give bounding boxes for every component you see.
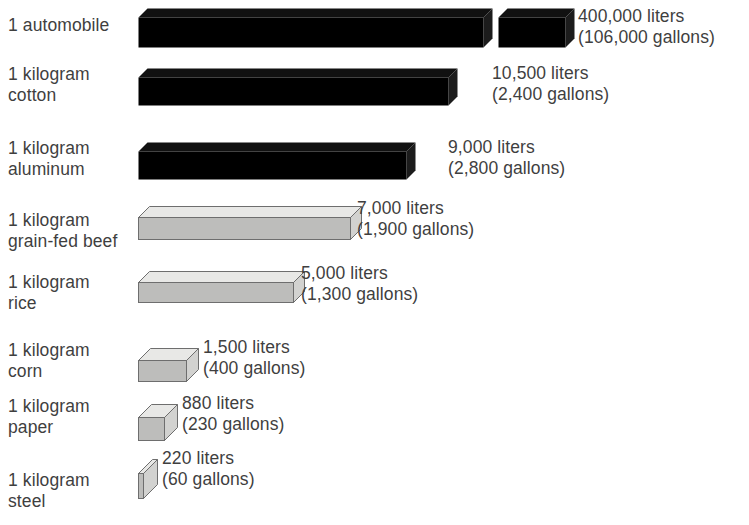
row-value-gallons: (106,000 gallons) xyxy=(578,27,715,47)
bar-3 xyxy=(138,206,363,241)
row-value-liters: 5,000 liters xyxy=(301,263,388,283)
row-value-7: 220 liters(60 gallons) xyxy=(162,448,255,490)
water-footprint-chart: 1 automobile400,000 liters(106,000 gallo… xyxy=(0,0,749,525)
row-label-0: 1 automobile xyxy=(8,15,109,36)
row-label-line1: 1 kilogram xyxy=(8,470,90,490)
row-value-liters: 7,000 liters xyxy=(357,198,444,218)
row-value-gallons: (1,300 gallons) xyxy=(301,284,418,304)
row-label-line2: rice xyxy=(8,293,37,313)
bar-2 xyxy=(138,142,417,181)
bar-0 xyxy=(138,8,494,49)
row-value-liters: 880 liters xyxy=(182,393,254,413)
row-value-liters: 220 liters xyxy=(162,448,234,468)
row-value-gallons: (1,900 gallons) xyxy=(357,219,474,239)
row-value-liters: 10,500 liters xyxy=(492,63,589,83)
row-label-line1: 1 automobile xyxy=(8,15,109,35)
row-value-gallons: (2,800 gallons) xyxy=(448,158,565,178)
row-label-line2: corn xyxy=(8,361,42,381)
bar-7 xyxy=(138,459,159,500)
row-label-line1: 1 kilogram xyxy=(8,340,90,360)
row-value-liters: 400,000 liters xyxy=(578,6,684,26)
row-value-gallons: (2,400 gallons) xyxy=(492,84,609,104)
row-label-3: 1 kilogramgrain-fed beef xyxy=(8,210,117,252)
row-value-3: 7,000 liters(1,900 gallons) xyxy=(357,198,474,240)
row-value-5: 1,500 liters(400 gallons) xyxy=(203,337,305,379)
row-label-4: 1 kilogramrice xyxy=(8,272,90,314)
bar-5 xyxy=(138,348,200,383)
row-value-gallons: (230 gallons) xyxy=(182,414,284,434)
row-label-line2: grain-fed beef xyxy=(8,231,117,251)
row-label-line1: 1 kilogram xyxy=(8,396,90,416)
row-label-line2: steel xyxy=(8,491,45,511)
row-value-6: 880 liters(230 gallons) xyxy=(182,393,284,435)
row-label-line2: cotton xyxy=(8,85,56,105)
bar-1 xyxy=(138,68,459,107)
row-value-liters: 9,000 liters xyxy=(448,137,535,157)
row-label-line1: 1 kilogram xyxy=(8,272,90,292)
row-value-0: 400,000 liters(106,000 gallons) xyxy=(578,6,715,48)
bar-0-segment-2 xyxy=(498,8,576,49)
row-label-6: 1 kilogrampaper xyxy=(8,396,90,438)
row-value-4: 5,000 liters(1,300 gallons) xyxy=(301,263,418,305)
row-label-line2: paper xyxy=(8,417,53,437)
row-value-gallons: (60 gallons) xyxy=(162,469,255,489)
bar-4 xyxy=(138,271,306,304)
row-label-line2: aluminum xyxy=(8,159,85,179)
row-label-1: 1 kilogramcotton xyxy=(8,64,90,106)
row-value-gallons: (400 gallons) xyxy=(203,358,305,378)
row-label-2: 1 kilogramaluminum xyxy=(8,138,90,180)
row-label-line1: 1 kilogram xyxy=(8,138,90,158)
row-label-5: 1 kilogramcorn xyxy=(8,340,90,382)
row-value-1: 10,500 liters(2,400 gallons) xyxy=(492,63,609,105)
row-label-7: 1 kilogramsteel xyxy=(8,470,90,512)
row-value-2: 9,000 liters(2,800 gallons) xyxy=(448,137,565,179)
bar-6 xyxy=(138,404,179,442)
row-value-liters: 1,500 liters xyxy=(203,337,290,357)
row-label-line1: 1 kilogram xyxy=(8,210,90,230)
row-label-line1: 1 kilogram xyxy=(8,64,90,84)
